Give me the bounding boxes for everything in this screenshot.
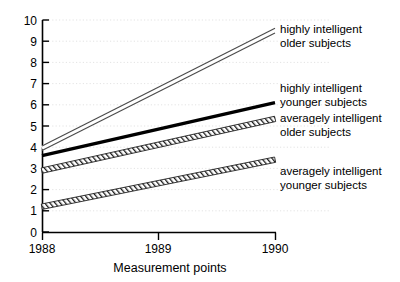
y-tick-label: 7	[30, 77, 37, 91]
y-tick-label: 9	[30, 35, 37, 49]
series-label-line2: younger subjects	[280, 96, 367, 108]
series-label-line2: older subjects	[280, 126, 351, 138]
y-tick-label: 8	[30, 56, 37, 70]
x-tick-label: 1988	[29, 242, 56, 256]
series-label-highly-intelligent-younger: highly intelligent younger subjects	[280, 82, 367, 108]
y-tick-labels: 10 9 8 7 6 5 4 3 2 1 0	[24, 14, 38, 240]
y-tick-label: 2	[30, 183, 37, 197]
series-label-line2: younger subjects	[280, 179, 367, 191]
y-tick-label: 3	[30, 162, 37, 176]
y-axis	[43, 20, 50, 232]
series-label-highly-intelligent-older: highly intelligent older subjects	[280, 23, 363, 49]
series-label-line1: highly intelligent	[280, 23, 363, 35]
y-tick-label: 6	[30, 98, 37, 112]
series-label-line1: averagely intelligent	[280, 112, 382, 124]
y-tick-label: 4	[30, 141, 37, 155]
line-chart: 10 9 8 7 6 5 4 3 2 1 0 1988 1989 1990	[0, 0, 400, 282]
y-tick-label: 0	[30, 226, 37, 240]
x-tick-label: 1989	[145, 242, 172, 256]
y-tick-label: 1	[30, 204, 37, 218]
series-label-line1: highly intelligent	[280, 82, 363, 94]
chart-container: 10 9 8 7 6 5 4 3 2 1 0 1988 1989 1990	[0, 0, 400, 282]
series-label-line2: older subjects	[280, 37, 351, 49]
x-tick-label: 1990	[262, 242, 289, 256]
series-label-averagely-intelligent-older: averagely intelligent older subjects	[280, 112, 382, 138]
x-tick-labels: 1988 1989 1990	[29, 242, 289, 256]
x-axis-title: Measurement points	[113, 261, 226, 275]
x-axis	[42, 233, 276, 241]
series-label-line1: averagely intelligent	[280, 165, 382, 177]
series-label-averagely-intelligent-younger: averagely intelligent younger subjects	[280, 165, 382, 191]
y-tick-label: 10	[24, 14, 38, 28]
y-tick-label: 5	[30, 120, 37, 134]
series-highly-intelligent-older	[42, 28, 275, 150]
